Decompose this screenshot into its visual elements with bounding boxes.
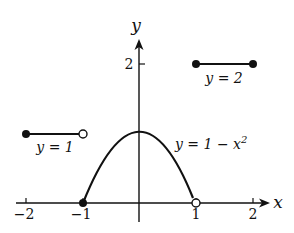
segment-y2-label: y = 2 (204, 70, 243, 86)
x-tick-label-2: 2 (249, 206, 258, 222)
x-axis-label: x (273, 192, 283, 212)
open-dot-icon (79, 130, 87, 138)
x-tick-label-neg1: −1 (71, 206, 92, 222)
closed-dot-icon (249, 60, 257, 68)
closed-dot-icon (192, 60, 200, 68)
parabola-label: y = 1 − x2 (174, 134, 247, 152)
open-dot-icon (192, 199, 200, 207)
x-tick-label-neg2: −2 (14, 206, 35, 222)
closed-dot-icon (79, 199, 87, 207)
closed-dot-icon (22, 130, 30, 138)
y-tick-label-2: 2 (125, 56, 134, 72)
piecewise-graph: −2 −1 1 2 2 x y y = 1 y = 1 − x2 y = 2 (0, 0, 294, 233)
x-tick-label-1: 1 (192, 206, 201, 222)
y-axis-label: y (130, 15, 141, 35)
segment-y1-label: y = 1 (35, 139, 73, 155)
